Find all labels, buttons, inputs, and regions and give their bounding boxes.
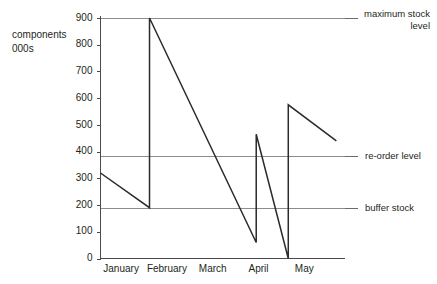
x-tick-label-may: May: [295, 263, 314, 274]
reference-label-maximum-stock-level: maximum stock: [364, 8, 430, 19]
y-tick-label: 600: [76, 92, 93, 103]
reference-label-re-order-level: re-order level: [365, 150, 421, 161]
reference-label-buffer-stock: buffer stock: [365, 202, 414, 213]
x-tick-label-february: February: [147, 263, 187, 274]
y-tick-label: 500: [76, 119, 93, 130]
y-tick-label: 100: [76, 225, 93, 236]
y-tick-label: 400: [76, 145, 93, 156]
y-axis-label-line-1: components: [12, 29, 66, 40]
data-series-group: [101, 18, 337, 259]
chart-canvas: 0100200300400500600700800900 JanuaryFebr…: [0, 0, 437, 284]
x-axis-ticks-group: JanuaryFebruaryMarchAprilMay: [103, 263, 313, 274]
x-tick-label-january: January: [103, 263, 139, 274]
axes-group: [101, 16, 346, 259]
reference-lines-group: [101, 19, 346, 209]
y-tick-label: 0: [87, 252, 93, 263]
x-tick-label-march: March: [199, 263, 227, 274]
captions-group: components 000s: [12, 29, 66, 54]
y-tick-label: 200: [76, 199, 93, 210]
y-axis-label-line-2: 000s: [12, 43, 34, 54]
y-tick-label: 300: [76, 172, 93, 183]
y-tick-label: 900: [76, 12, 93, 23]
x-tick-label-april: April: [249, 263, 269, 274]
y-axis-ticks-group: 0100200300400500600700800900: [76, 12, 101, 264]
stock-level-line: [101, 18, 337, 259]
reference-label-maximum-stock-level: level: [410, 20, 430, 31]
reference-line-labels-group: maximum stocklevelre-order levelbuffer s…: [345, 8, 430, 213]
stock-control-chart: 0100200300400500600700800900 JanuaryFebr…: [0, 0, 437, 284]
y-tick-label: 800: [76, 38, 93, 49]
y-tick-label: 700: [76, 65, 93, 76]
